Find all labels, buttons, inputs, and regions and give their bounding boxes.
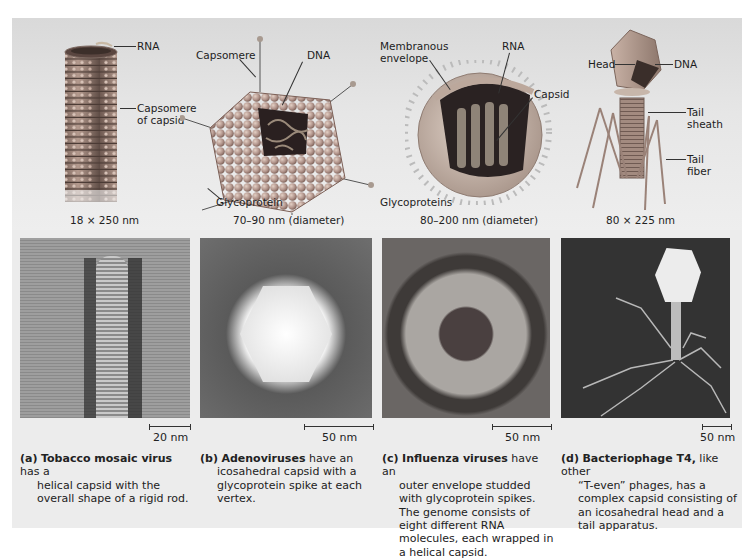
label-dna-b: DNA: [307, 49, 330, 61]
phage-tail-fibers: [561, 238, 730, 418]
micrograph-influenza: [382, 238, 550, 418]
label-head-d: Head: [588, 58, 615, 70]
dimension-d: 80 × 225 nm: [606, 214, 675, 226]
caption-body: icosahedral capsid with a glycoprotein s…: [200, 465, 370, 505]
leader-line: [655, 64, 673, 65]
caption-b: (b) Adenoviruses have an icosahedral cap…: [200, 452, 370, 506]
leader-line: [666, 159, 686, 160]
scale-label-c: 50 nm: [505, 431, 540, 444]
label-rna-a: RNA: [137, 40, 159, 52]
leader-line: [120, 108, 136, 109]
caption-bold: Influenza viruses: [402, 452, 508, 465]
label-glycoproteins-c: Glycoproteins: [380, 196, 452, 208]
label-glycoprotein-b: Glycoprotein: [216, 196, 283, 208]
adenovirus-capsid: [240, 286, 332, 382]
caption-bold: Tobacco mosaic virus: [41, 452, 172, 465]
label-tail-fiber-line1: Tail: [687, 153, 704, 165]
caption-tag: (d): [561, 452, 579, 465]
caption-tag: (b): [200, 452, 218, 465]
rod-shadow-right: [128, 258, 142, 418]
scale-bar-d: [702, 424, 732, 430]
micrograph-adenovirus: [200, 238, 372, 418]
label-rna-c: RNA: [502, 40, 524, 52]
caption-tag: (c): [382, 452, 399, 465]
caption-body: “T-even” phages, has a complex capsid co…: [561, 479, 743, 533]
label-capsid-c: Capsid: [534, 88, 569, 100]
scale-label-a: 20 nm: [153, 431, 188, 444]
rod-shadow-left: [84, 258, 96, 418]
caption-first-line: has a: [20, 465, 50, 478]
label-membranous-envelope-line2: envelope: [380, 52, 428, 64]
label-tail-sheath-line1: Tail: [687, 106, 704, 118]
micrograph-bacteriophage-t4: [561, 238, 730, 418]
caption-body: helical capsid with the overall shape of…: [20, 479, 192, 506]
tmv-rod: [96, 256, 128, 418]
scale-bar-a: [149, 424, 191, 430]
dimension-b: 70–90 nm (diameter): [233, 214, 344, 226]
scale-label-d: 50 nm: [700, 431, 735, 444]
scale-bar-b: [304, 424, 374, 430]
caption-a: (a) Tobacco mosaic virus has a helical c…: [20, 452, 192, 506]
caption-tag: (a): [20, 452, 37, 465]
caption-first-line: have an: [305, 452, 353, 465]
tmv-rod-illustration: [60, 40, 130, 210]
caption-body: outer envelope studded with glycoprotein…: [382, 479, 554, 559]
bacteriophage-illustration: [575, 28, 695, 213]
micrograph-tobacco-mosaic-virus: [20, 238, 190, 418]
scale-bar-c: [492, 424, 552, 430]
label-dna-d: DNA: [674, 58, 697, 70]
label-capsomere-of-capsid-line2: of capsid: [137, 114, 184, 126]
label-tail-fiber-line2: fiber: [687, 165, 711, 177]
label-tail-sheath-line2: sheath: [687, 118, 723, 130]
dimension-a: 18 × 250 nm: [70, 214, 139, 226]
caption-c: (c) Influenza viruses have an outer enve…: [382, 452, 554, 559]
caption-d: (d) Bacteriophage T4, like other “T-even…: [561, 452, 743, 532]
leader-line: [114, 46, 136, 47]
dimension-c: 80–200 nm (diameter): [420, 214, 538, 226]
leader-line: [615, 64, 635, 65]
influenza-illustration: [405, 60, 575, 205]
leader-line: [648, 112, 686, 113]
caption-bold: Bacteriophage T4,: [582, 452, 695, 465]
label-capsomere-b: Capsomere: [196, 49, 256, 61]
label-membranous-envelope-line1: Membranous: [380, 40, 448, 52]
caption-bold: Adenoviruses: [221, 452, 305, 465]
scale-label-b: 50 nm: [322, 431, 357, 444]
